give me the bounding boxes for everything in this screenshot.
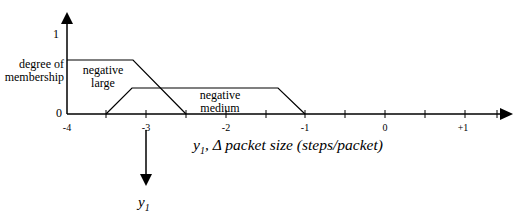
negative-medium-line2: medium — [190, 102, 250, 115]
x-axis-var: y — [193, 136, 200, 153]
x-tick-label: -3 — [142, 122, 150, 133]
x-tick-label: +1 — [458, 122, 469, 133]
x-axis-label: y1, Δ packet size (steps/packet) — [193, 136, 383, 156]
negative-large-line2: large — [78, 77, 128, 90]
y-axis-label: degree of membership — [5, 58, 64, 84]
output-variable-label: y1 — [138, 194, 150, 213]
x-tick-label: 0 — [383, 122, 388, 133]
x-tick-label: -2 — [222, 122, 230, 133]
membership-function-diagram — [0, 0, 531, 221]
x-tick-label: -4 — [63, 122, 71, 133]
y-tick-1: 1 — [53, 28, 59, 41]
y-tick-0: 0 — [56, 107, 62, 120]
output-arrowhead-icon — [140, 174, 152, 186]
output-var: y — [138, 194, 145, 210]
x-axis-text: , Δ packet size (steps/packet) — [205, 136, 383, 153]
y-axis-label-line2: membership — [5, 71, 64, 84]
output-sub: 1 — [145, 202, 150, 213]
negative-large-label: negative large — [78, 64, 128, 90]
x-tick-label: -1 — [301, 122, 309, 133]
negative-medium-label: negative medium — [190, 89, 250, 115]
x-axis-arrowhead-icon — [500, 108, 513, 120]
y-axis-arrowhead-icon — [61, 12, 73, 24]
